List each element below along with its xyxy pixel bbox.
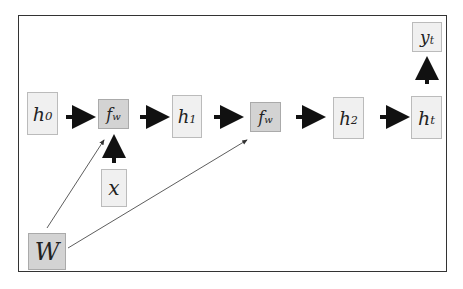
node-h2: h2 (333, 97, 364, 139)
node-h1: h1 (172, 95, 202, 138)
arrow-W-fw2 (68, 140, 247, 248)
node-h0: h0 (27, 92, 58, 135)
node-fw-1: fw (98, 99, 129, 129)
node-ht: ht (411, 96, 442, 139)
node-x: x (101, 169, 127, 207)
edges-layer (0, 0, 463, 289)
node-W: W (28, 233, 66, 270)
node-fw-2: fw (250, 102, 281, 132)
node-yt: yt (412, 22, 442, 52)
arrow-W-fw1 (47, 140, 104, 228)
